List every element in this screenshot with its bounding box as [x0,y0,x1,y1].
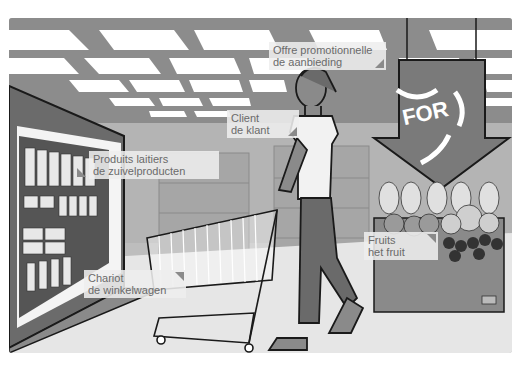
label-corner-marker [175,272,184,281]
label-fruit-fr: Fruits [368,234,424,246]
label-client-fr: Client [231,112,285,124]
label-dairy-nl: de zuivelproducten [93,165,205,177]
supermarket-illustration: FOR [9,18,512,353]
label-corner-marker [427,234,436,243]
label-cart-nl: de winkelwagen [88,284,172,296]
label-corner-marker [375,59,384,68]
label-cart-fr: Chariot [88,272,172,284]
label-promotion-nl: de aanbieding [273,56,372,68]
label-fruit-nl: het fruit [368,246,424,258]
label-corner-marker [288,127,297,136]
label-client-nl: de klant [231,124,285,136]
label-fruit: Fruits het fruit [364,232,438,260]
scene-drawing: FOR [9,18,512,353]
label-dairy-fr: Produits laitiers [93,153,205,165]
label-cart: Chariot de winkelwagen [84,270,186,298]
label-promotion-fr: Offre promotionnelle [273,44,372,56]
label-promotion: Offre promotionnelle de aanbieding [269,42,386,70]
label-client: Client de klant [227,110,299,138]
label-dairy: Produits laitiers de zuivelproducten [89,151,219,179]
label-corner-marker [77,168,86,177]
